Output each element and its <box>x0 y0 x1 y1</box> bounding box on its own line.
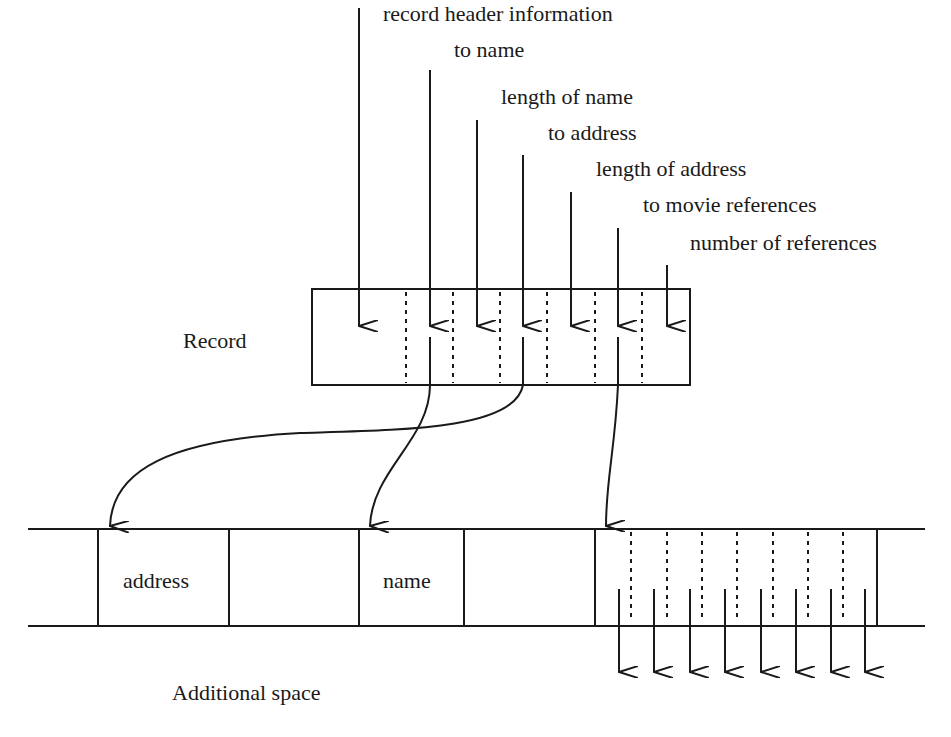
pointer-to-movie-references <box>606 337 618 526</box>
pointer-to-address <box>110 337 523 526</box>
field-labels: record header information to name length… <box>383 1 877 255</box>
record-label: Record <box>183 328 247 353</box>
pointer-to-name <box>370 337 430 526</box>
pointer-curves <box>110 337 618 526</box>
movie-reference-arrows <box>619 589 865 672</box>
label-length-of-address: length of address <box>596 156 746 181</box>
record-layout-diagram: record header information to name length… <box>0 0 951 737</box>
name-cell-label: name <box>383 568 431 593</box>
label-number-of-references: number of references <box>690 230 877 255</box>
label-length-of-name: length of name <box>501 84 633 109</box>
label-record-header: record header information <box>383 1 613 26</box>
label-to-name: to name <box>454 37 524 62</box>
label-to-movie-references: to movie references <box>643 192 816 217</box>
label-to-address: to address <box>548 120 637 145</box>
record-box <box>312 289 690 385</box>
address-cell-label: address <box>123 568 189 593</box>
additional-space-label: Additional space <box>172 680 320 705</box>
